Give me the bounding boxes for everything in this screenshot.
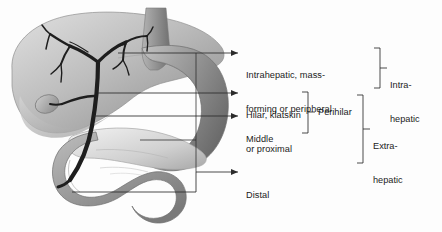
group-extrahepatic-line2: hepatic — [373, 175, 403, 186]
callout-distal-line1: Distal — [246, 190, 269, 201]
callout-intrahepatic-line1: Intrahepatic, mass- — [246, 70, 332, 81]
callout-label-middle: Middle — [246, 111, 273, 168]
group-intrahepatic-line1: Intra- — [390, 80, 420, 91]
leader-arrowheads — [231, 50, 238, 175]
bracket-extrahepatic — [357, 95, 363, 163]
bracket-intrahepatic — [374, 48, 380, 88]
callout-middle-line1: Middle — [246, 134, 273, 145]
callout-label-distal: Distal — [246, 167, 269, 224]
cholangiocarcinoma-classification-figure: Intrahepatic, mass- forming or periphera… — [0, 0, 442, 232]
group-label-perihilar: Perihilar — [318, 107, 352, 118]
group-label-extrahepatic: Extra- hepatic — [373, 118, 403, 209]
group-extrahepatic-line1: Extra- — [373, 141, 403, 152]
